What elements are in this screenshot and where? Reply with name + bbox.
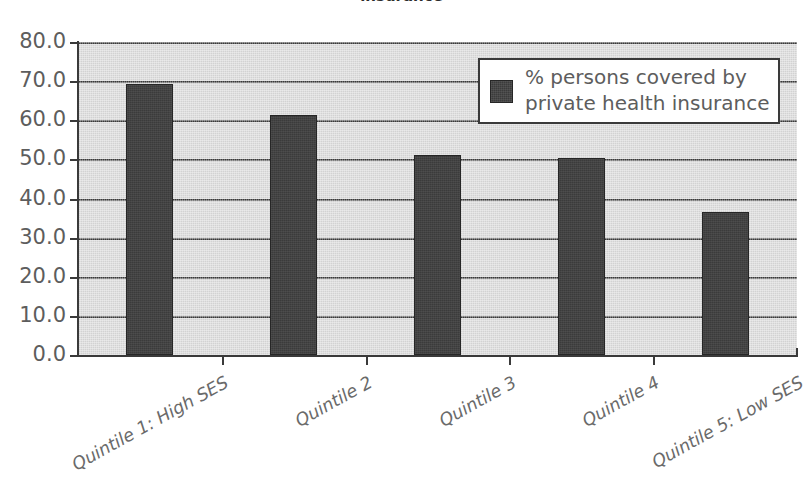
y-tick-label: 30.0 bbox=[19, 227, 66, 248]
y-tick-label: 0.0 bbox=[33, 344, 66, 365]
x-category-label: Quintile 3 bbox=[435, 372, 519, 431]
legend-swatch-icon bbox=[490, 80, 513, 103]
chart-title: insurance bbox=[0, 0, 803, 5]
legend-label-line-1: % persons covered by bbox=[525, 65, 747, 89]
y-tick-label: 10.0 bbox=[19, 305, 66, 326]
bar bbox=[558, 158, 605, 355]
bar bbox=[414, 155, 461, 355]
legend-label: % persons covered by private health insu… bbox=[525, 65, 770, 116]
x-axis-right-end-tick bbox=[796, 348, 798, 357]
y-tick-mark bbox=[70, 277, 78, 279]
y-tick-mark bbox=[70, 81, 78, 83]
y-tick-label: 40.0 bbox=[19, 188, 66, 209]
x-category-label: Quintile 2 bbox=[291, 372, 375, 431]
y-tick-label: 80.0 bbox=[19, 31, 66, 52]
y-tick-label: 60.0 bbox=[19, 109, 66, 130]
y-tick-mark bbox=[70, 42, 78, 44]
x-tick-mark bbox=[366, 356, 368, 365]
x-axis-line bbox=[77, 355, 798, 357]
x-tick-mark bbox=[222, 356, 224, 365]
y-tick-mark bbox=[70, 120, 78, 122]
bar bbox=[702, 212, 749, 355]
x-category-label: Quintile 1: High SES bbox=[68, 372, 231, 475]
legend-label-line-2: private health insurance bbox=[525, 91, 770, 115]
y-tick-label: 50.0 bbox=[19, 148, 66, 169]
x-tick-mark bbox=[509, 356, 511, 365]
y-tick-label: 70.0 bbox=[19, 70, 66, 91]
chart-container: insurance 0.010.020.030.040.050.060.070.… bbox=[0, 0, 803, 493]
y-tick-label: 20.0 bbox=[19, 266, 66, 287]
x-category-label: Quintile 5: Low SES bbox=[648, 372, 803, 472]
bar bbox=[270, 115, 317, 355]
y-tick-mark bbox=[70, 355, 78, 357]
y-tick-mark bbox=[70, 199, 78, 201]
gridline bbox=[78, 42, 797, 44]
y-tick-mark bbox=[70, 238, 78, 240]
bar bbox=[126, 84, 173, 355]
x-category-label: Quintile 4 bbox=[579, 372, 663, 431]
x-tick-mark bbox=[653, 356, 655, 365]
y-tick-mark bbox=[70, 316, 78, 318]
legend: % persons covered by private health insu… bbox=[478, 58, 780, 124]
y-tick-mark bbox=[70, 159, 78, 161]
